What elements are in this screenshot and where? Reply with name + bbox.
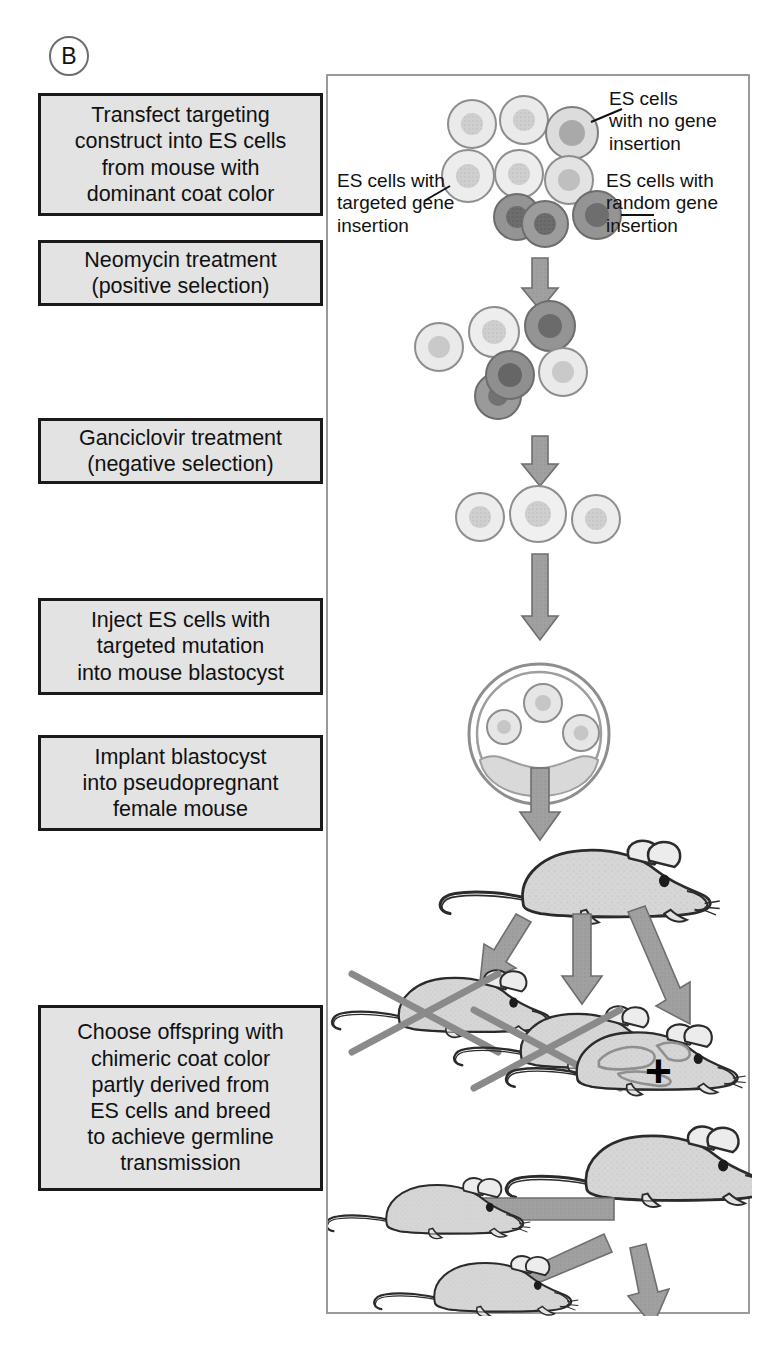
step-box-implant-label: Implant blastocyst into pseudopregnant f… [82,744,278,823]
es-cell-targeted [572,495,620,543]
cross-out-mark-1 [352,974,498,1052]
injected-es-cell [563,715,599,751]
diagram-stage [328,76,752,1316]
arrow-breed-to-offspring-bottom [628,1244,669,1316]
callout-es-cells-random-gene-insertion: ES cells with random gene insertion [606,170,718,237]
es-cell-light [415,323,463,371]
arrow-female-to-chimera [628,906,690,1024]
cell-group-after-ganciclovir [456,486,620,543]
mouse-offspring-nonchimeric-1 [332,970,558,1037]
mouse-offspring-a [328,1178,530,1239]
arrow-ganciclovir-to-inject [522,554,558,640]
es-cell-dark [475,373,521,419]
injected-es-cell [524,684,562,722]
cross-breeding-plus-symbol: + [645,1048,672,1094]
step-box-neomycin-label: Neomycin treatment (positive selection) [84,247,276,299]
cell-group-after-neomycin [415,301,587,419]
es-cell-light [495,150,543,198]
es-cell-no-gene-insertion [546,107,598,159]
es-cell-dark [486,351,534,399]
arrow-female-to-offspring-left [480,914,531,982]
arrow-transfect-to-neomycin [522,258,558,310]
mouse-chimera [506,1024,746,1095]
step-box-ganciclovir: Ganciclovir treatment (negative selectio… [38,418,323,484]
step-box-ganciclovir-label: Ganciclovir treatment (negative selectio… [79,425,282,477]
es-cell-light [448,100,496,148]
step-box-choose-offspring: Choose offspring with chimeric coat colo… [38,1005,323,1191]
step-box-inject: Inject ES cells with targeted mutation i… [38,598,323,695]
es-cell-random-gene-insertion [522,201,568,247]
step-box-transfect-label: Transfect targeting construct into ES ce… [75,102,287,207]
arrow-breed-to-offspring-middle [488,1234,612,1302]
arrow-blastocyst-to-female-mouse [520,768,560,840]
step-box-inject-label: Inject ES cells with targeted mutation i… [77,607,284,686]
cross-out-mark-2 [474,1010,620,1088]
callout-es-cells-targeted-gene-insertion: ES cells with targeted gene insertion [337,170,454,237]
mouse-breeder-chimera [506,1127,752,1207]
step-box-transfect: Transfect targeting construct into ES ce… [38,93,323,216]
es-cell-light [539,348,587,396]
arrow-female-to-offspring-middle [562,914,602,1004]
figure-panel-b: B Transfect targeting construct into ES … [0,0,775,1347]
mouse-pseudopregnant-female [440,841,720,924]
arrow-breed-to-offspring-left [440,1188,614,1230]
step-box-implant: Implant blastocyst into pseudopregnant f… [38,735,323,831]
arrow-neomycin-to-ganciclovir [522,436,558,486]
callout-es-cells-no-gene-insertion: ES cells with no gene insertion [609,88,717,155]
cell-group-transfected [442,96,621,247]
illustration-panel [326,74,750,1314]
es-cell-light [500,96,548,144]
es-cell-targeted [510,486,566,542]
es-cell-light [545,156,593,204]
injected-es-cell [487,710,521,744]
blastocyst [469,664,609,804]
es-cell-dark [525,301,575,351]
step-box-neomycin: Neomycin treatment (positive selection) [38,240,323,306]
es-cell-targeted [456,493,504,541]
es-cell-light [469,307,519,357]
mouse-offspring-b [374,1256,578,1316]
es-cell-random-gene-insertion [494,194,540,240]
step-box-choose-offspring-label: Choose offspring with chimeric coat colo… [77,1019,283,1176]
panel-letter-badge: B [49,36,89,76]
